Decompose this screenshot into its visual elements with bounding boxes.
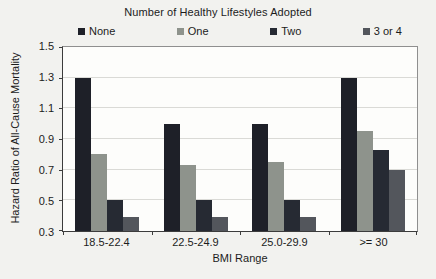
bar-two: [196, 200, 212, 231]
y-tick-label: 0.3: [39, 226, 54, 238]
bar-none: [341, 78, 357, 231]
legend-swatch-icon: [363, 28, 370, 35]
bar-none: [252, 124, 268, 231]
x-category-label: 25.0-29.9: [240, 236, 329, 248]
x-category-label: 22.5-24.9: [151, 236, 240, 248]
legend-item: Two: [270, 25, 301, 37]
bar-groups: [63, 47, 417, 231]
bar-one: [268, 162, 284, 231]
bar-one: [91, 154, 107, 231]
y-tick-label: 0.9: [39, 133, 54, 145]
legend-item: None: [78, 25, 115, 37]
bar-two: [284, 200, 300, 231]
bar-3-or-4: [123, 217, 139, 231]
x-tick-mark: [63, 231, 64, 235]
plot-area: [62, 46, 418, 232]
legend: NoneOneTwo3 or 4: [78, 24, 402, 38]
bar-group: [329, 47, 418, 231]
y-tick-label: 0.5: [39, 195, 54, 207]
legend-swatch-icon: [177, 28, 184, 35]
y-axis-title: Hazard Ratio of All-Cause Mortality: [9, 43, 23, 233]
legend-label: 3 or 4: [374, 25, 402, 37]
bar-group: [240, 47, 329, 231]
bar-group: [63, 47, 152, 231]
x-tick-mark: [329, 231, 330, 235]
bar-3-or-4: [300, 217, 316, 231]
bar-3-or-4: [389, 170, 405, 231]
y-tick-label: 1.1: [39, 102, 54, 114]
legend-label: One: [188, 25, 209, 37]
bar-one: [357, 131, 373, 231]
legend-item: 3 or 4: [363, 25, 402, 37]
y-tick-label: 0.7: [39, 164, 54, 176]
x-axis-title: BMI Range: [62, 252, 418, 264]
x-tick-mark: [240, 231, 241, 235]
bar-two: [107, 200, 123, 231]
y-tick-label: 1.5: [39, 40, 54, 52]
y-axis-ticks: 0.30.50.70.91.11.31.5: [26, 46, 56, 232]
legend-swatch-icon: [78, 28, 85, 35]
x-category-label: 18.5-22.4: [62, 236, 151, 248]
bar-two: [373, 150, 389, 231]
x-axis-labels: 18.5-22.422.5-24.925.0-29.9>= 30: [62, 236, 418, 248]
bar-3-or-4: [212, 217, 228, 231]
x-category-label: >= 30: [329, 236, 418, 248]
bar-one: [180, 165, 196, 231]
legend-label: None: [89, 25, 115, 37]
bar-none: [75, 78, 91, 231]
x-tick-mark: [416, 231, 417, 235]
bar-none: [164, 124, 180, 231]
legend-item: One: [177, 25, 209, 37]
legend-label: Two: [281, 25, 301, 37]
x-tick-mark: [152, 231, 153, 235]
legend-swatch-icon: [270, 28, 277, 35]
chart-title: Number of Healthy Lifestyles Adopted: [0, 6, 436, 18]
bar-group: [152, 47, 241, 231]
y-tick-label: 1.3: [39, 71, 54, 83]
